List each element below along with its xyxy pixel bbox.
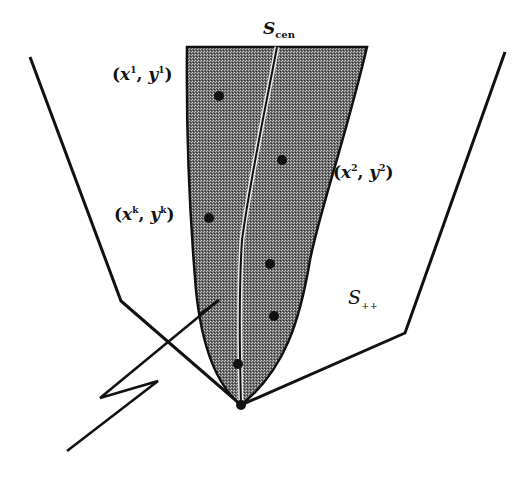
separator: , bbox=[136, 64, 148, 84]
iterate-point-k bbox=[204, 213, 214, 223]
label-point-2: (x2, y2) bbox=[333, 162, 394, 182]
var-x: x bbox=[341, 162, 351, 182]
label-s-cen: Scen bbox=[263, 18, 295, 40]
label-s-cen-sub: cen bbox=[275, 29, 295, 40]
iterate-point-2 bbox=[277, 155, 287, 165]
apex-point bbox=[236, 400, 246, 410]
var-y: y bbox=[150, 204, 160, 224]
label-s-plusplus: S++ bbox=[348, 286, 378, 311]
var-y: y bbox=[369, 162, 379, 182]
var-x: x bbox=[122, 204, 132, 224]
label-point-1: (x1, y1) bbox=[112, 64, 173, 84]
var-x: x bbox=[120, 64, 130, 84]
zigzag-path bbox=[67, 300, 219, 451]
separator: , bbox=[357, 162, 369, 182]
label-point-k: (xk, yk) bbox=[114, 204, 174, 224]
paren-close: ) bbox=[164, 64, 172, 84]
iterate-point-5 bbox=[269, 311, 279, 321]
paren-open: ( bbox=[114, 204, 122, 224]
diagram-canvas bbox=[0, 0, 527, 490]
paren-open: ( bbox=[333, 162, 341, 182]
label-s-plusplus-sub: ++ bbox=[361, 300, 378, 311]
var-y: y bbox=[148, 64, 158, 84]
separator: , bbox=[138, 204, 150, 224]
paren-close: ) bbox=[166, 204, 174, 224]
paren-open: ( bbox=[112, 64, 120, 84]
iterate-point-1 bbox=[214, 91, 224, 101]
paren-close: ) bbox=[385, 162, 393, 182]
label-s-plusplus-base: S bbox=[348, 286, 361, 308]
label-s-cen-base: S bbox=[263, 18, 275, 38]
iterate-point-6 bbox=[233, 359, 243, 369]
iterate-point-4 bbox=[265, 259, 275, 269]
shaded-neighborhood-region bbox=[187, 47, 367, 405]
